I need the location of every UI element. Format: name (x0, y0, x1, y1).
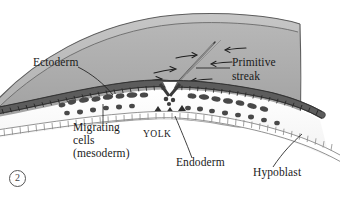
label-yolk: YOLK (143, 128, 171, 141)
figure-panel: Ectoderm Primitive streak Migrating cell… (0, 0, 346, 200)
label-migrating-line1: Migrating (73, 121, 120, 134)
figure-number: 2 (9, 170, 26, 187)
label-ectoderm: Ectoderm (33, 56, 79, 69)
label-migrating-line2: cells (73, 134, 95, 147)
label-hypoblast: Hypoblast (253, 166, 301, 179)
label-endoderm: Endoderm (176, 156, 225, 169)
label-primitive-streak-line2: streak (232, 70, 260, 83)
label-migrating-line3: (mesoderm) (73, 147, 130, 160)
label-primitive-streak-line1: Primitive (232, 56, 276, 69)
